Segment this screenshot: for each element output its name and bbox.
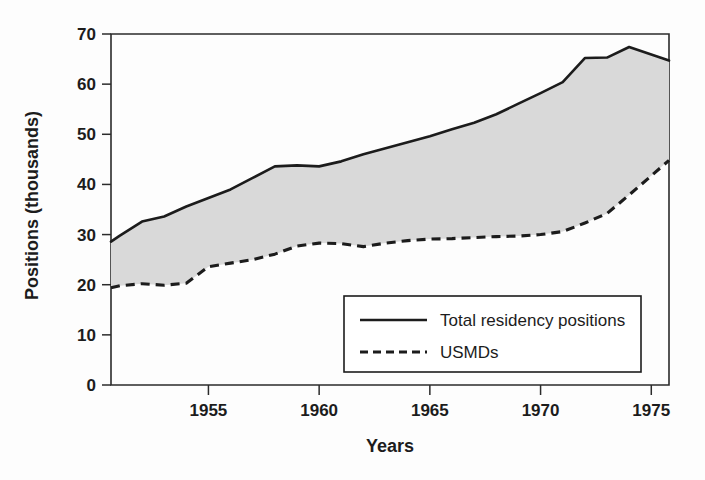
x-axis-title: Years [366, 436, 414, 456]
y-tick-label: 30 [77, 226, 96, 245]
x-tick-label: 1955 [190, 401, 228, 420]
legend-label-total-residency-positions: Total residency positions [440, 311, 625, 330]
area-between-series [111, 47, 669, 288]
legend-label-usmds: USMDs [440, 343, 499, 362]
x-tick-label: 1975 [632, 401, 670, 420]
y-tick-label: 0 [87, 376, 96, 395]
y-tick-label: 70 [77, 25, 96, 44]
x-axis-ticks: 19551960196519701975 [190, 385, 671, 420]
line-area-chart: 010203040506070 19551960196519701975 Pos… [0, 0, 705, 480]
x-tick-label: 1970 [522, 401, 560, 420]
chart-legend: Total residency positions USMDs [344, 296, 641, 372]
y-tick-label: 60 [77, 75, 96, 94]
y-tick-label: 10 [77, 326, 96, 345]
y-axis-ticks: 010203040506070 [77, 25, 111, 395]
y-axis-title: Positions (thousands) [22, 111, 42, 300]
y-tick-label: 40 [77, 175, 96, 194]
y-tick-label: 50 [77, 125, 96, 144]
chart-figure: 010203040506070 19551960196519701975 Pos… [0, 0, 705, 480]
x-tick-label: 1965 [411, 401, 449, 420]
y-tick-label: 20 [77, 276, 96, 295]
x-tick-label: 1960 [300, 401, 338, 420]
series-group [111, 47, 669, 288]
